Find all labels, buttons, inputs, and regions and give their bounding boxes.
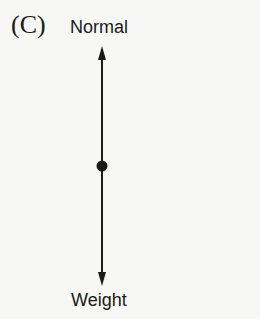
free-body-diagram bbox=[0, 0, 260, 319]
weight-arrowhead-icon bbox=[98, 272, 106, 286]
object-point-icon bbox=[97, 161, 108, 172]
weight-force-label: Weight bbox=[71, 290, 127, 311]
normal-arrowhead-icon bbox=[98, 46, 106, 60]
